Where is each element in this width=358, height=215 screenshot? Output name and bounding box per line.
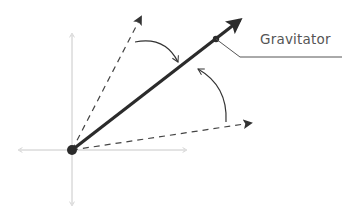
origin-point — [67, 145, 77, 155]
upper-dashed-vector — [72, 17, 141, 150]
lower-dashed-vector — [72, 123, 251, 150]
lower-rotation-arrow — [198, 69, 226, 122]
gravitator-label: Gravitator — [260, 31, 331, 47]
upper-rotation-arrow — [135, 41, 178, 62]
